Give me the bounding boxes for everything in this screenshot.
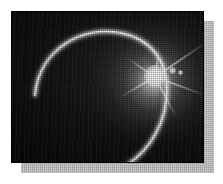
eclipse-photo[interactable] xyxy=(11,11,204,163)
secondary-flare-dot xyxy=(178,70,183,75)
secondary-flare-dot xyxy=(169,67,176,74)
page-canvas xyxy=(0,0,223,184)
crescent-limb-arc xyxy=(17,17,197,163)
